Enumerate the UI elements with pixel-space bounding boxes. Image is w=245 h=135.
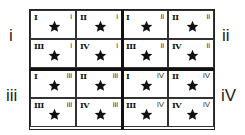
grid-cell-iii-iii: III iii bbox=[30, 98, 76, 127]
star-icon bbox=[186, 20, 199, 33]
cell-minor-label: i bbox=[116, 41, 118, 50]
grid-cell-i-iv: IV i bbox=[76, 39, 122, 68]
cell-minor-label: iV bbox=[203, 100, 210, 109]
cell-major-label: III bbox=[126, 41, 136, 51]
cell-minor-label: i bbox=[116, 12, 118, 21]
cell-minor-label: iii bbox=[67, 71, 72, 80]
star-grid: I i II i III i IV i I ii II ii bbox=[29, 9, 215, 130]
grid-cell-iv-i: I iV bbox=[122, 69, 168, 98]
cell-major-label: IV bbox=[172, 100, 181, 110]
cell-minor-label: iV bbox=[157, 100, 164, 109]
star-icon bbox=[140, 49, 153, 62]
cell-major-label: III bbox=[126, 100, 136, 110]
grid-cell-i-iii: III i bbox=[30, 39, 76, 68]
cell-major-label: II bbox=[172, 12, 178, 22]
cell-major-label: II bbox=[172, 71, 178, 81]
cell-minor-label: ii bbox=[206, 41, 210, 50]
grid-cell-iv-ii: II iV bbox=[168, 69, 214, 98]
grid-cell-i-ii: II i bbox=[76, 10, 122, 39]
cell-minor-label: ii bbox=[206, 12, 210, 21]
cell-major-label: I bbox=[34, 71, 37, 81]
cell-major-label: IV bbox=[80, 100, 89, 110]
cell-major-label: I bbox=[126, 71, 129, 81]
cell-minor-label: i bbox=[70, 12, 72, 21]
cell-major-label: I bbox=[34, 12, 37, 22]
cell-major-label: I bbox=[126, 12, 129, 22]
star-icon bbox=[94, 79, 107, 92]
star-icon bbox=[186, 108, 199, 121]
grid-cell-ii-iii: III ii bbox=[122, 39, 168, 68]
cell-major-label: IV bbox=[172, 41, 181, 51]
grid-cell-ii-ii: II ii bbox=[168, 10, 214, 39]
star-icon bbox=[140, 79, 153, 92]
star-icon bbox=[140, 20, 153, 33]
grid-cell-iv-iv: IV iV bbox=[168, 98, 214, 127]
star-icon bbox=[140, 108, 153, 121]
cell-minor-label: i bbox=[70, 41, 72, 50]
cell-major-label: II bbox=[80, 71, 86, 81]
star-icon bbox=[94, 20, 107, 33]
star-icon bbox=[48, 20, 61, 33]
star-icon bbox=[186, 49, 199, 62]
horizontal-divider bbox=[30, 68, 214, 71]
quadrant-label-iv: iV bbox=[221, 86, 236, 106]
cell-major-label: III bbox=[34, 41, 44, 51]
cell-major-label: IV bbox=[80, 41, 89, 51]
block-i: I i II i III i IV i bbox=[30, 10, 122, 69]
star-icon bbox=[94, 49, 107, 62]
block-ii: I ii II ii III ii IV ii bbox=[122, 10, 214, 69]
block-iii: I iii II iii III iii IV iii bbox=[30, 69, 122, 129]
grid-cell-iii-i: I iii bbox=[30, 69, 76, 98]
quadrant-label-ii: ii bbox=[222, 26, 230, 46]
grid-cell-iii-iv: IV iii bbox=[76, 98, 122, 127]
cell-minor-label: iii bbox=[113, 100, 118, 109]
grid-cell-ii-i: I ii bbox=[122, 10, 168, 39]
cell-minor-label: iV bbox=[203, 71, 210, 80]
cell-minor-label: ii bbox=[160, 41, 164, 50]
block-iv: I iV II iV III iV IV iV bbox=[122, 69, 214, 129]
star-icon bbox=[48, 79, 61, 92]
grid-cell-ii-iv: IV ii bbox=[168, 39, 214, 68]
grid-cell-iv-iii: III iV bbox=[122, 98, 168, 127]
cell-minor-label: ii bbox=[160, 12, 164, 21]
quadrant-label-i: i bbox=[9, 26, 13, 46]
cell-minor-label: iii bbox=[67, 100, 72, 109]
star-icon bbox=[186, 79, 199, 92]
cell-major-label: II bbox=[80, 12, 86, 22]
star-icon bbox=[94, 108, 107, 121]
cell-major-label: III bbox=[34, 100, 44, 110]
cell-minor-label: iii bbox=[113, 71, 118, 80]
star-icon bbox=[48, 49, 61, 62]
star-icon bbox=[48, 108, 61, 121]
quadrant-label-iii: iii bbox=[6, 86, 17, 106]
grid-cell-iii-ii: II iii bbox=[76, 69, 122, 98]
grid-cell-i-i: I i bbox=[30, 10, 76, 39]
cell-minor-label: iV bbox=[157, 71, 164, 80]
